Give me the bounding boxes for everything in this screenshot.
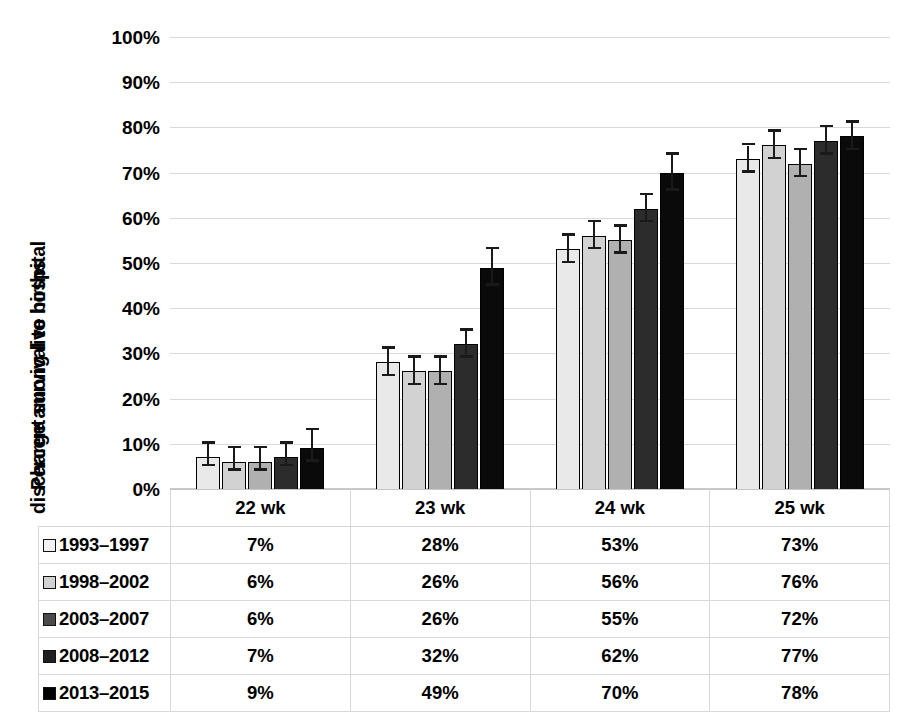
error-cap-lower-2003-2007-23-wk <box>434 383 447 386</box>
error-cap-lower-2008-2012-23-wk <box>460 355 473 358</box>
y-tick-label-10: 10% <box>122 434 160 453</box>
error-cap-upper-2013-2015-24-wk <box>666 152 679 155</box>
error-cap-upper-2008-2012-23-wk <box>460 328 473 331</box>
error-bar-1993-1997-23-wk <box>387 349 389 376</box>
bar-1998-2002-25-wk <box>762 145 786 489</box>
legend-swatch-icon <box>43 650 56 663</box>
table-row: 2003–20076%26%55%72% <box>39 601 890 638</box>
table-cell-24-wk-1993-1997: 53% <box>530 527 710 564</box>
error-cap-upper-2008-2012-24-wk <box>640 193 653 196</box>
error-cap-lower-2008-2012-22-wk <box>280 464 293 467</box>
table-cell-22-wk-2003-2007: 6% <box>171 601 351 638</box>
table-cell-25-wk-1993-1997: 73% <box>710 527 890 564</box>
error-cap-lower-2013-2015-22-wk <box>306 459 319 462</box>
table-column-header-24-wk: 24 wk <box>530 490 710 527</box>
table-corner-cell <box>39 490 171 527</box>
error-cap-lower-2008-2012-25-wk <box>820 152 833 155</box>
bar-2008-2012-25-wk <box>814 141 838 489</box>
legend-swatch-icon <box>43 613 56 626</box>
error-cap-upper-1993-1997-24-wk <box>562 233 575 236</box>
legend-item-1998-2002[interactable]: 1998–2002 <box>39 564 171 601</box>
error-cap-upper-1998-2002-22-wk <box>228 446 241 449</box>
table-row: 2013–20159%49%70%78% <box>39 675 890 712</box>
legend-item-1993-1997[interactable]: 1993–1997 <box>39 527 171 564</box>
bar-group-25-wk <box>710 37 890 489</box>
bar-1998-2002-24-wk <box>582 236 606 489</box>
error-cap-upper-2013-2015-25-wk <box>846 120 859 123</box>
bar-2003-2007-23-wk <box>428 371 452 489</box>
error-cap-lower-2013-2015-23-wk <box>486 283 499 286</box>
error-cap-lower-2008-2012-24-wk <box>640 220 653 223</box>
error-cap-upper-2008-2012-25-wk <box>820 125 833 128</box>
legend-swatch-icon <box>43 687 56 700</box>
error-bar-2013-2015-25-wk <box>851 123 853 150</box>
error-bar-2003-2007-23-wk <box>439 358 441 385</box>
error-bar-1998-2002-23-wk <box>413 358 415 385</box>
bar-1993-1997-25-wk <box>736 159 760 489</box>
table-cell-23-wk-1993-1997: 28% <box>350 527 530 564</box>
bar-2003-2007-24-wk <box>608 240 632 489</box>
error-bar-2013-2015-23-wk <box>491 249 493 285</box>
legend-label: 2008–2012 <box>59 647 149 666</box>
table-cell-22-wk-2008-2012: 7% <box>171 638 351 675</box>
table-cell-23-wk-2003-2007: 26% <box>350 601 530 638</box>
error-bar-2008-2012-24-wk <box>645 195 647 222</box>
table-cell-22-wk-2013-2015: 9% <box>171 675 351 712</box>
error-bar-2003-2007-24-wk <box>619 227 621 254</box>
bar-group-22-wk <box>170 37 350 489</box>
legend-swatch-icon <box>43 539 56 552</box>
error-cap-lower-1998-2002-22-wk <box>228 468 241 471</box>
error-cap-upper-2003-2007-23-wk <box>434 355 447 358</box>
plot-area <box>170 37 890 489</box>
error-bar-2013-2015-22-wk <box>311 430 313 462</box>
bar-2013-2015-23-wk <box>480 268 504 489</box>
error-cap-lower-2003-2007-24-wk <box>614 251 627 254</box>
error-cap-lower-1998-2002-23-wk <box>408 383 421 386</box>
table-cell-24-wk-2013-2015: 70% <box>530 675 710 712</box>
y-tick-label-40: 40% <box>122 299 160 318</box>
y-tick-label-100: 100% <box>111 28 160 47</box>
y-tick-label-50: 50% <box>122 254 160 273</box>
legend-label: 1998–2002 <box>59 573 149 592</box>
table-row: 2008–20127%32%62%77% <box>39 638 890 675</box>
error-bar-2008-2012-23-wk <box>465 331 467 358</box>
table-cell-23-wk-2008-2012: 32% <box>350 638 530 675</box>
legend-item-2013-2015[interactable]: 2013–2015 <box>39 675 171 712</box>
table-cell-24-wk-2008-2012: 62% <box>530 638 710 675</box>
table-cell-22-wk-1998-2002: 6% <box>171 564 351 601</box>
error-cap-lower-1993-1997-25-wk <box>742 170 755 173</box>
table-cell-25-wk-2003-2007: 72% <box>710 601 890 638</box>
legend-item-2008-2012[interactable]: 2008–2012 <box>39 638 171 675</box>
bar-1993-1997-23-wk <box>376 362 400 489</box>
table-row: 1993–19977%28%53%73% <box>39 527 890 564</box>
y-axis-tick-labels: 0%10%20%30%40%50%60%70%80%90%100% <box>84 0 166 500</box>
error-bar-2013-2015-24-wk <box>671 155 673 191</box>
y-axis-title-line-2: discharge among live births <box>27 260 50 514</box>
error-cap-lower-1993-1997-24-wk <box>562 261 575 264</box>
error-cap-upper-1998-2002-24-wk <box>588 220 601 223</box>
table-cell-25-wk-2008-2012: 77% <box>710 638 890 675</box>
y-tick-label-30: 30% <box>122 344 160 363</box>
error-cap-lower-2013-2015-25-wk <box>846 148 859 151</box>
legend-item-2003-2007[interactable]: 2003–2007 <box>39 601 171 638</box>
table-cell-25-wk-2013-2015: 78% <box>710 675 890 712</box>
error-bar-1993-1997-25-wk <box>747 146 749 173</box>
bar-2008-2012-23-wk <box>454 344 478 489</box>
y-tick-label-60: 60% <box>122 208 160 227</box>
error-cap-lower-2003-2007-22-wk <box>254 468 267 471</box>
error-bar-2003-2007-25-wk <box>799 150 801 177</box>
table-cell-24-wk-1998-2002: 56% <box>530 564 710 601</box>
error-cap-upper-1998-2002-23-wk <box>408 355 421 358</box>
y-tick-label-90: 90% <box>122 73 160 92</box>
bar-2008-2012-24-wk <box>634 209 658 489</box>
error-cap-upper-1993-1997-23-wk <box>382 346 395 349</box>
table-cell-24-wk-2003-2007: 55% <box>530 601 710 638</box>
table-cell-23-wk-2013-2015: 49% <box>350 675 530 712</box>
bar-2013-2015-24-wk <box>660 173 684 489</box>
error-cap-upper-2013-2015-22-wk <box>306 428 319 431</box>
error-cap-lower-1993-1997-22-wk <box>202 464 215 467</box>
error-cap-upper-2008-2012-22-wk <box>280 441 293 444</box>
error-bar-2008-2012-25-wk <box>825 127 827 154</box>
table-cell-23-wk-1998-2002: 26% <box>350 564 530 601</box>
